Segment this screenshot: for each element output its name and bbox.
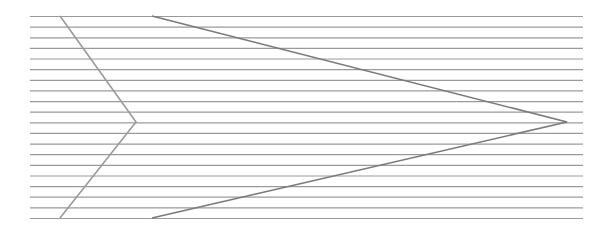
lines-and-chevrons-figure xyxy=(0,0,605,235)
background xyxy=(0,0,605,235)
diagram-canvas xyxy=(0,0,605,235)
